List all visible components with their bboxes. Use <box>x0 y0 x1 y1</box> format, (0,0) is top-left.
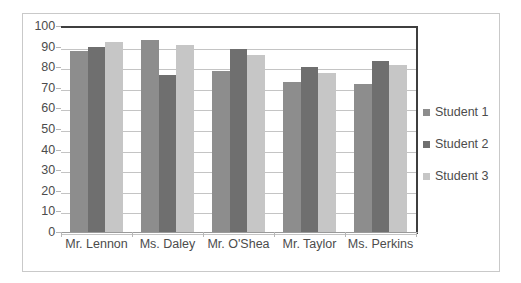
legend-label: Student 3 <box>435 170 489 183</box>
bar[interactable] <box>283 82 301 232</box>
y-axis-tick-label: 20 <box>23 185 55 198</box>
x-axis-tick-label: Mr. O'Shea <box>203 238 274 252</box>
bar[interactable] <box>212 71 230 232</box>
y-axis-tick-label: 40 <box>23 143 55 156</box>
bar[interactable] <box>372 61 390 232</box>
bar-group <box>212 26 265 232</box>
x-axis-tick-label: Mr. Taylor <box>274 238 345 252</box>
bars-layer <box>61 26 416 232</box>
legend-swatch-icon <box>423 141 430 148</box>
legend-swatch-icon <box>423 173 430 180</box>
x-axis-tick-label: Ms. Perkins <box>345 238 416 252</box>
bar[interactable] <box>389 65 407 232</box>
y-axis-tick-label: 100 <box>23 20 55 33</box>
y-axis-tick-label: 80 <box>23 61 55 74</box>
legend-label: Student 2 <box>435 138 489 151</box>
bar[interactable] <box>318 73 336 232</box>
category-tick-mark <box>132 232 133 237</box>
bar[interactable] <box>159 75 177 232</box>
bar-group <box>283 26 336 232</box>
bar[interactable] <box>301 67 319 232</box>
gridline <box>61 234 416 235</box>
bar[interactable] <box>354 84 372 232</box>
y-axis-tick-label: 0 <box>23 226 55 239</box>
y-axis: 1009080706050403020100 <box>23 26 55 232</box>
legend-label: Student 1 <box>435 106 489 119</box>
y-axis-tick-label: 10 <box>23 205 55 218</box>
bar[interactable] <box>176 45 194 232</box>
category-tick-mark <box>345 232 346 237</box>
legend-item[interactable]: Student 1 <box>423 100 499 124</box>
bar[interactable] <box>70 51 88 232</box>
bar[interactable] <box>105 42 123 232</box>
chart-frame: 1009080706050403020100 Mr. LennonMs. Dal… <box>22 13 500 272</box>
category-tick-mark <box>203 232 204 237</box>
chart-plot-wrapper: 1009080706050403020100 Mr. LennonMs. Dal… <box>23 14 501 273</box>
category-tick-mark <box>61 232 62 237</box>
y-axis-tick-label: 50 <box>23 123 55 136</box>
legend-item[interactable]: Student 3 <box>423 164 499 188</box>
x-axis-tick-label: Mr. Lennon <box>61 238 132 252</box>
bar[interactable] <box>230 49 248 232</box>
x-axis-tick-label: Ms. Daley <box>132 238 203 252</box>
chart-legend: Student 1Student 2Student 3 <box>423 100 499 196</box>
bar-group <box>141 26 194 232</box>
category-tick-mark <box>416 232 417 237</box>
y-axis-tick-label: 70 <box>23 82 55 95</box>
bar-group <box>354 26 407 232</box>
bar[interactable] <box>141 40 159 232</box>
bar-group <box>70 26 123 232</box>
x-axis: Mr. LennonMs. DaleyMr. O'SheaMr. TaylorM… <box>61 238 416 258</box>
x-axis-baseline <box>61 232 418 233</box>
category-tick-mark <box>274 232 275 237</box>
y-axis-tick-label: 90 <box>23 40 55 53</box>
legend-item[interactable]: Student 2 <box>423 132 499 156</box>
bar[interactable] <box>247 55 265 232</box>
y-axis-tick-label: 60 <box>23 102 55 115</box>
bar[interactable] <box>88 47 106 232</box>
legend-swatch-icon <box>423 109 430 116</box>
y-axis-tick-label: 30 <box>23 164 55 177</box>
